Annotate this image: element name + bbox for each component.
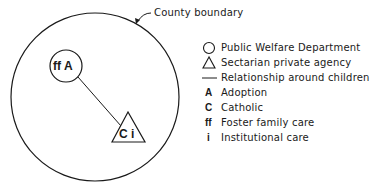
legend-code-adoption: A xyxy=(205,87,212,99)
legend-label-adoption: Adoption xyxy=(221,87,267,99)
triangle-icon xyxy=(203,57,215,68)
public-welfare-node-label: ff A xyxy=(53,59,73,73)
circle-icon xyxy=(204,43,215,54)
legend-label-foster-care: Foster family care xyxy=(221,117,314,129)
legend-code-foster-care: ff xyxy=(205,117,212,129)
relationship-line xyxy=(78,77,121,126)
legend-label-institutional-care: Institutional care xyxy=(221,132,309,144)
legend-label-sectarian-agency: Sectarian private agency xyxy=(221,57,351,69)
sectarian-agency-node-label: C i xyxy=(119,127,134,141)
legend-label-relationship: Relationship around children xyxy=(221,72,370,84)
county-boundary-label: County boundary xyxy=(154,7,243,19)
legend-code-institutional-care: i xyxy=(207,132,210,144)
legend-label-public-welfare: Public Welfare Department xyxy=(221,42,360,54)
boundary-arrow-icon xyxy=(138,13,151,21)
legend-code-catholic: C xyxy=(205,102,212,114)
legend-label-catholic: Catholic xyxy=(221,102,263,114)
